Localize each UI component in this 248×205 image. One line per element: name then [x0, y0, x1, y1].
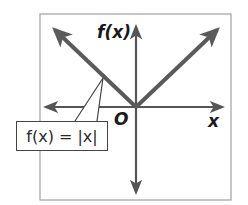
- x-axis-label: x: [208, 113, 219, 130]
- function-label-text: f(x) = |x|: [26, 127, 97, 146]
- y-axis-label: f(x): [97, 24, 131, 41]
- graph-right-branch: [136, 30, 217, 107]
- origin-label: O: [114, 111, 128, 128]
- callout-pointer: [75, 78, 103, 121]
- function-label-box: f(x) = |x|: [16, 121, 108, 151]
